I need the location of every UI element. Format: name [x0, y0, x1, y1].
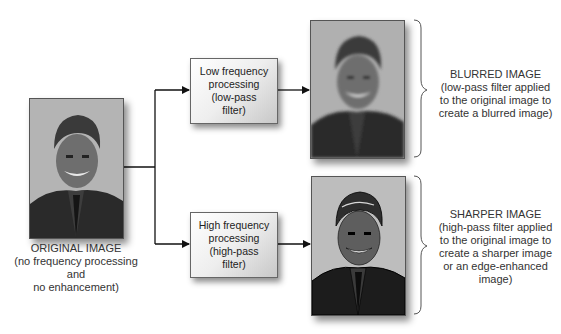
sharper-desc-line: image)	[430, 273, 561, 286]
high-pass-filter-box: High frequency processing (high-pass fil…	[190, 212, 278, 278]
high-pass-line: (high-pass	[199, 245, 270, 258]
low-pass-line: Low frequency	[200, 65, 268, 78]
sharper-photo	[311, 176, 406, 316]
high-pass-line: High frequency	[199, 219, 270, 232]
blurred-caption: BLURRED IMAGE (low-pass filter applied t…	[430, 68, 561, 120]
portrait-sharpened-icon	[312, 177, 405, 315]
high-pass-line: processing	[199, 232, 270, 245]
original-title: ORIGINAL IMAGE	[0, 242, 152, 255]
low-pass-line: processing	[200, 78, 268, 91]
original-desc-line: (no frequency processing	[0, 255, 152, 268]
original-desc-line: no enhancement)	[0, 281, 152, 294]
sharper-desc-line: create a sharper image	[430, 247, 561, 260]
low-pass-line: filter)	[200, 104, 268, 117]
sharper-desc-line: (high-pass filter applied	[430, 221, 561, 234]
low-pass-filter-box: Low frequency processing (low-pass filte…	[190, 58, 278, 124]
brace-sharper	[414, 176, 427, 314]
sharper-desc-line: to the original image to	[430, 234, 561, 247]
portrait-blurred-icon	[311, 21, 404, 158]
blurred-photo	[310, 20, 405, 159]
portrait-icon	[30, 99, 123, 238]
blurred-title: BLURRED IMAGE	[430, 68, 561, 81]
sharper-desc-line: or an edge-enhanced	[430, 260, 561, 273]
high-pass-line: filter)	[199, 258, 270, 271]
low-pass-line: (low-pass	[200, 91, 268, 104]
brace-blurred	[414, 20, 427, 157]
original-caption: ORIGINAL IMAGE (no frequency processing …	[0, 242, 152, 294]
sharper-title: SHARPER IMAGE	[430, 208, 561, 221]
original-desc-line: and	[0, 268, 152, 281]
sharper-caption: SHARPER IMAGE (high-pass filter applied …	[430, 208, 561, 286]
blurred-desc-line: create a blurred image)	[430, 107, 561, 120]
original-photo	[29, 98, 124, 239]
blurred-desc-line: (low-pass filter applied	[430, 81, 561, 94]
blurred-desc-line: to the original image to	[430, 94, 561, 107]
